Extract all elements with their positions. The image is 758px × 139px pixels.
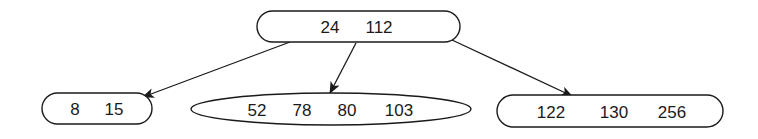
child-node-0: 8 15 xyxy=(42,93,152,124)
child-1-key-2: 80 xyxy=(338,101,357,120)
child-2-key-2: 256 xyxy=(658,103,686,122)
root-key-1: 112 xyxy=(365,18,392,37)
root-node: 24 112 xyxy=(257,11,460,42)
child-0-key-1: 15 xyxy=(105,100,124,119)
child-2-key-1: 130 xyxy=(600,103,628,122)
edge-root-to-child-1 xyxy=(330,43,356,93)
root-key-0: 24 xyxy=(321,18,340,37)
child-node-2: 122 130 256 xyxy=(497,95,723,127)
child-0-key-0: 8 xyxy=(70,100,79,119)
child-1-key-1: 78 xyxy=(293,101,312,120)
child-1-key-3: 103 xyxy=(385,101,413,120)
child-2-key-0: 122 xyxy=(537,103,565,122)
edge-root-to-child-0 xyxy=(143,42,290,97)
child-1-key-0: 52 xyxy=(248,101,267,120)
edge-root-to-child-2 xyxy=(452,40,572,96)
b-tree-diagram: 24 112 8 15 52 78 80 103 122 130 256 xyxy=(0,0,758,139)
child-node-1: 52 78 80 103 xyxy=(191,93,471,125)
